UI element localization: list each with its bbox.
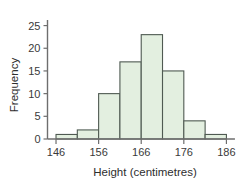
- y-tick-label: 10: [28, 88, 40, 100]
- x-tick-label: 166: [132, 146, 150, 158]
- histogram-bar: [99, 94, 120, 139]
- histogram-bar: [120, 62, 141, 139]
- y-axis-title: Frequency: [8, 58, 20, 113]
- x-axis-title: Height (centimetres): [93, 166, 197, 178]
- x-tick-label: 156: [89, 146, 107, 158]
- histogram-chart: 0510152025 146156166176186 Frequency Hei…: [0, 0, 250, 187]
- y-tick-label: 15: [28, 65, 40, 77]
- y-tick-label: 20: [28, 42, 40, 54]
- histogram-bar: [77, 130, 98, 139]
- histogram-bar: [141, 35, 162, 139]
- y-tick-label: 5: [34, 110, 40, 122]
- histogram-bar: [184, 121, 205, 139]
- x-tick-label: 146: [47, 146, 65, 158]
- x-tick-label: 186: [217, 146, 235, 158]
- y-tick-label: 25: [28, 20, 40, 32]
- x-tick-label: 176: [175, 146, 193, 158]
- y-tick-label: 0: [34, 133, 40, 145]
- chart-canvas: 0510152025 146156166176186 Frequency Hei…: [0, 0, 250, 187]
- histogram-bar: [163, 71, 184, 139]
